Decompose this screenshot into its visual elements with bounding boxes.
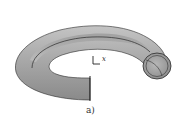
axis-marker-icon [93, 56, 100, 64]
torus-diagram: x a) [0, 0, 186, 128]
axis-label-x: x [102, 55, 106, 63]
figure-caption: a) [86, 105, 95, 115]
